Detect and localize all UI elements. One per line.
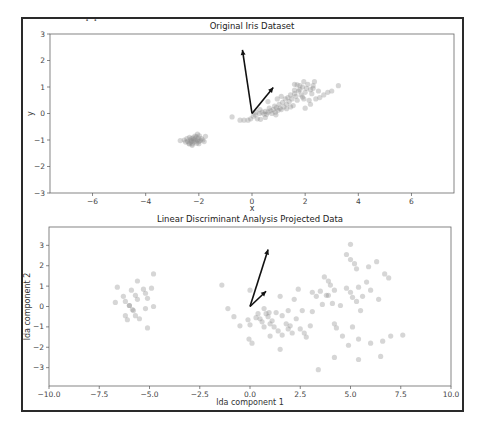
data-point [135, 278, 140, 283]
y-tick-label: −1 [34, 136, 45, 145]
data-point [318, 289, 323, 294]
y-tick-label: 3 [40, 30, 45, 39]
x-tick-label: 2.5 [294, 390, 306, 399]
data-point [276, 328, 281, 333]
data-point [268, 321, 273, 326]
data-point [310, 309, 315, 314]
data-point [356, 337, 361, 342]
y-tick-label: −3 [33, 363, 44, 372]
data-point [298, 326, 303, 331]
data-point [121, 294, 126, 299]
y-tick-label: −2 [34, 162, 45, 171]
y-tick-label: −1 [33, 322, 44, 331]
data-point [311, 86, 316, 91]
x-tick-label: −2 [193, 197, 204, 206]
data-point [263, 115, 268, 120]
x-tick-label: −10.0 [38, 390, 61, 399]
data-point [378, 354, 383, 359]
data-point [202, 139, 207, 144]
data-point [356, 285, 361, 290]
data-point [312, 79, 317, 84]
x-axis-label: lda component 1 [216, 398, 284, 407]
data-point [294, 316, 299, 321]
data-point [330, 301, 335, 306]
data-point [366, 264, 371, 269]
data-point [196, 141, 201, 146]
data-point [123, 299, 128, 304]
data-point [348, 242, 353, 247]
data-point [253, 315, 258, 320]
y-tick-label: 3 [39, 241, 44, 250]
data-point [115, 285, 120, 290]
data-point [278, 347, 283, 352]
data-point [237, 323, 242, 328]
data-point [368, 341, 373, 346]
data-point [265, 99, 270, 104]
data-point [279, 94, 284, 99]
data-point [358, 308, 363, 313]
x-tick-label: 4 [356, 197, 361, 206]
data-point [261, 306, 266, 311]
plot-title: Original Iris Dataset [210, 21, 295, 31]
data-point [326, 293, 331, 298]
data-point [374, 259, 379, 264]
y-tick-label: 2 [39, 261, 44, 270]
x-tick-label: −4 [140, 197, 151, 206]
data-point [280, 332, 285, 337]
plot-lda-projected: Linear Discriminant Analysis Projected D… [23, 214, 460, 407]
x-tick-label: 10.0 [443, 390, 460, 399]
data-point [231, 314, 236, 319]
data-point [322, 274, 327, 279]
data-point [304, 334, 309, 339]
x-axis-label: x [250, 204, 255, 213]
data-point [225, 306, 230, 311]
data-point [400, 332, 405, 337]
data-point [340, 333, 345, 338]
data-point [344, 286, 349, 291]
data-point [113, 300, 118, 305]
data-point [308, 323, 313, 328]
data-point [328, 282, 333, 287]
data-point [295, 82, 300, 87]
x-tick-label: 5.0 [345, 390, 357, 399]
data-point [346, 343, 351, 348]
y-axis-label: lda component 2 [23, 273, 32, 341]
data-point [350, 324, 355, 329]
data-point [296, 287, 301, 292]
data-point [229, 114, 234, 119]
data-point [192, 133, 197, 138]
data-point [356, 357, 361, 362]
data-point [292, 297, 297, 302]
data-point [354, 299, 359, 304]
data-point [310, 290, 315, 295]
data-point [309, 91, 314, 96]
y-axis-label: y [26, 111, 35, 116]
y-tick-label: −2 [33, 343, 44, 352]
data-point [261, 324, 266, 329]
y-tick-label: −3 [34, 189, 45, 198]
data-point [130, 307, 135, 312]
data-point [316, 88, 321, 93]
data-point [308, 102, 313, 107]
data-point [219, 282, 224, 287]
data-point [329, 88, 334, 93]
y-tick-label: 2 [40, 56, 45, 65]
data-point [301, 79, 306, 84]
data-point [145, 325, 150, 330]
data-point [386, 275, 391, 280]
data-point [376, 297, 381, 302]
data-point [338, 303, 343, 308]
data-point [125, 317, 130, 322]
data-point [292, 88, 297, 93]
data-point [332, 355, 337, 360]
y-tick-label: 1 [40, 83, 45, 92]
x-tick-label: 7.5 [395, 390, 407, 399]
data-point [380, 339, 385, 344]
data-point [382, 271, 387, 276]
data-point [316, 367, 321, 372]
data-point [368, 288, 373, 293]
plot-title: Linear Discriminant Analysis Projected D… [157, 214, 343, 224]
data-point [151, 271, 156, 276]
data-point [344, 252, 349, 257]
data-point [300, 308, 305, 313]
